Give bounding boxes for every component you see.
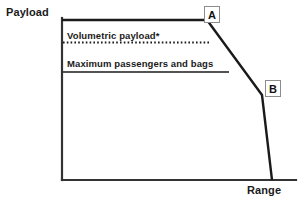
- payload-range-chart: Payload Range Volumetric payload* Maximu…: [0, 0, 308, 202]
- x-axis-label: Range: [247, 184, 281, 196]
- payload-range-envelope-line: [62, 20, 272, 180]
- max-passengers-and-bags-label: Maximum passengers and bags: [67, 58, 213, 69]
- point-marker-b: B: [265, 80, 281, 97]
- point-marker-a: A: [204, 6, 220, 23]
- y-axis-label: Payload: [6, 6, 49, 18]
- volumetric-payload-label: Volumetric payload*: [67, 30, 160, 41]
